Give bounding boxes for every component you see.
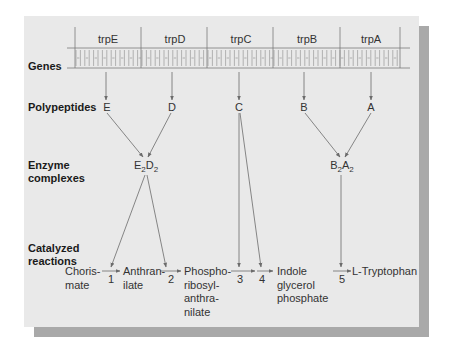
polypeptide-B: B bbox=[300, 101, 307, 113]
row-title-polypeptides: Polypeptides bbox=[28, 101, 96, 114]
row-title-enzyme-line2: complexes bbox=[28, 172, 85, 185]
polypeptide-C: C bbox=[235, 101, 243, 113]
polypeptide-E: E bbox=[103, 101, 110, 113]
compound-indole-glycerol-phosphate: Indoleglycerolphosphate bbox=[277, 265, 328, 306]
enzyme-complex-E2D2: E2D2 bbox=[134, 159, 158, 174]
step-2: 2 bbox=[168, 273, 174, 285]
step-1: 1 bbox=[108, 273, 114, 285]
gene-label-trpA: trpA bbox=[361, 33, 381, 45]
step-3: 3 bbox=[237, 273, 243, 285]
compound-l-tryptophan: L-Tryptophan bbox=[352, 265, 417, 279]
compound-anthranilate: Anthran-ilate bbox=[123, 265, 165, 292]
gene-label-trpD: trpD bbox=[165, 33, 186, 45]
compound-phosphoribosyl-anthranilate: Phospho-ribosyl-anthra-nilate bbox=[184, 265, 231, 319]
row-title-enzyme-complexes: Enzyme complexes bbox=[28, 159, 85, 185]
gene-label-trpE: trpE bbox=[98, 33, 118, 45]
polypeptide-D: D bbox=[168, 101, 176, 113]
polypeptide-A: A bbox=[367, 101, 374, 113]
row-title-catalyzed-line1: Catalyzed bbox=[28, 242, 79, 255]
row-title-enzyme-line1: Enzyme bbox=[28, 159, 85, 172]
gene-label-trpB: trpB bbox=[297, 33, 317, 45]
gene-label-trpC: trpC bbox=[231, 33, 252, 45]
compound-chorismate: Choris-mate bbox=[65, 265, 100, 292]
step-4: 4 bbox=[259, 273, 265, 285]
row-title-genes: Genes bbox=[28, 60, 62, 73]
step-5: 5 bbox=[339, 273, 345, 285]
enzyme-complex-B2A2: B2A2 bbox=[330, 159, 354, 174]
